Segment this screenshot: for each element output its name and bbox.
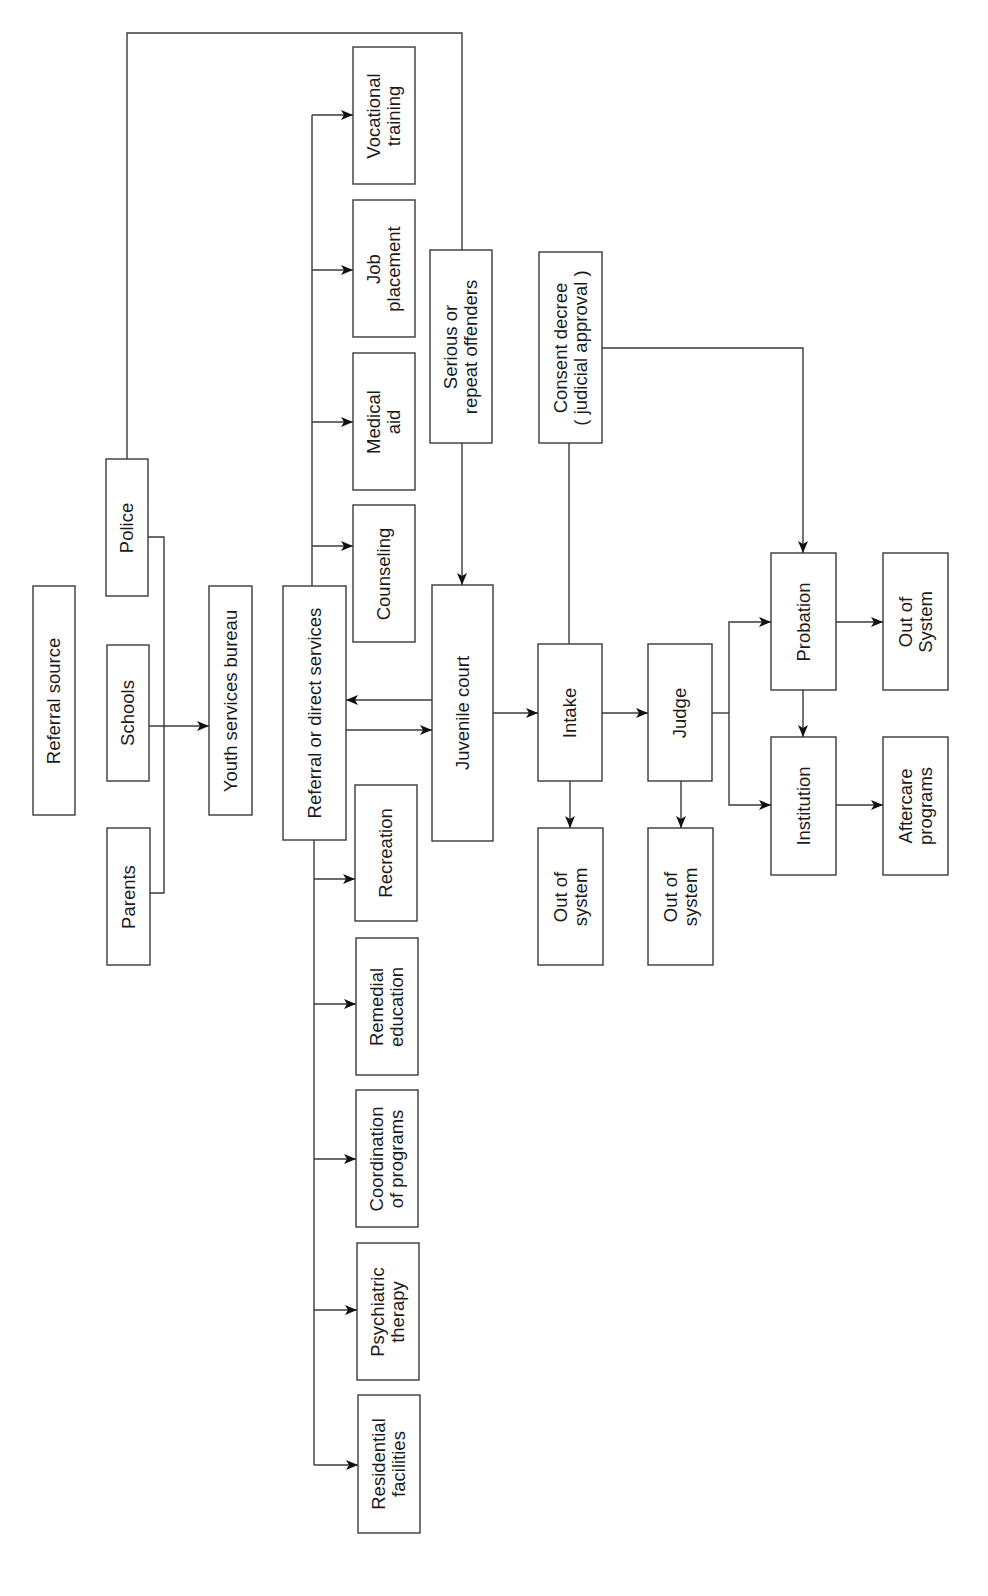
node-police: Police: [106, 459, 148, 596]
node-recreation: Recreation: [355, 785, 417, 921]
label-job-line1: Job: [364, 226, 384, 311]
node-intake: Intake: [538, 644, 602, 781]
node-referral-source: Referral source: [33, 586, 75, 815]
label-aftercare-line2: programs: [916, 767, 936, 845]
node-remedial-education: Remedial education: [356, 938, 418, 1075]
node-serious-offenders: Serious or repeat offenders: [430, 250, 492, 443]
edge-consent-probation: [602, 348, 803, 553]
label-institution: Institution: [793, 766, 814, 845]
label-out-judge-line1: Out of: [661, 867, 681, 926]
label-out-probation-line2: System: [916, 591, 936, 653]
label-psychiatric-line1: Psychiatric: [368, 1267, 388, 1356]
node-youth-services-bureau: Youth services bureau: [209, 586, 252, 815]
node-juvenile-court: Juvenile court: [432, 585, 493, 841]
label-serious-line1: Serious or: [441, 279, 461, 413]
label-schools: Schools: [117, 680, 138, 746]
node-out-of-system-probation: Out of System: [883, 553, 948, 690]
node-parents: Parents: [107, 828, 150, 965]
label-recreation: Recreation: [375, 808, 396, 897]
label-medical-line2: aid: [384, 390, 404, 454]
node-medical-aid: Medical aid: [353, 353, 415, 490]
node-residential-facilities: Residential facilities: [358, 1395, 420, 1533]
label-probation: Probation: [793, 582, 814, 661]
label-out-judge-line2: system: [681, 867, 701, 926]
label-juvenile-court: Juvenile court: [452, 656, 473, 770]
label-residential-line2: facilities: [389, 1418, 409, 1510]
label-judge: Judge: [669, 687, 690, 737]
label-coordination-line2: of programs: [387, 1106, 407, 1211]
edge-judge-institution: [729, 713, 771, 805]
label-counseling: Counseling: [373, 527, 394, 620]
node-probation: Probation: [771, 553, 836, 690]
label-coordination-line1: Coordination: [367, 1106, 387, 1211]
label-consent-line1: Consent decree: [551, 270, 571, 425]
label-aftercare-line1: Aftercare: [896, 767, 916, 845]
node-job-placement: Job placement: [353, 200, 415, 337]
node-coordination-programs: Coordination of programs: [356, 1090, 418, 1227]
node-consent-decree: Consent decree ( judicial approval ): [539, 252, 602, 443]
label-vocational-line2: training: [384, 73, 404, 158]
node-counseling: Counseling: [353, 505, 415, 642]
flowchart-canvas: [0, 0, 988, 1596]
node-institution: Institution: [771, 737, 836, 875]
node-out-of-system-intake: Out of system: [538, 828, 603, 965]
label-out-probation-line1: Out of: [896, 591, 916, 653]
label-out-intake-line1: Out of: [551, 867, 571, 926]
label-residential-line1: Residential: [369, 1418, 389, 1510]
label-remedial-line1: Remedial: [367, 966, 387, 1046]
label-serious-line2: repeat offenders: [461, 279, 481, 413]
label-job-line2: placement: [384, 226, 404, 311]
node-vocational-training: Vocational training: [353, 47, 415, 184]
label-out-intake-line2: system: [571, 867, 591, 926]
node-out-of-system-judge: Out of system: [648, 828, 713, 965]
node-aftercare-programs: Aftercare programs: [883, 737, 948, 875]
label-intake: Intake: [559, 687, 580, 737]
node-referral-direct-services: Referral or direct services: [283, 586, 346, 840]
label-vocational-line1: Vocational: [364, 73, 384, 158]
node-psychiatric-therapy: Psychiatric therapy: [357, 1243, 419, 1380]
label-youth-services-bureau: Youth services bureau: [220, 609, 241, 791]
label-medical-line1: Medical: [364, 390, 384, 454]
edge-judge-probation: [729, 622, 771, 713]
node-schools: Schools: [107, 645, 149, 781]
label-remedial-line2: education: [387, 966, 407, 1046]
label-psychiatric-line2: therapy: [388, 1267, 408, 1356]
node-judge: Judge: [648, 644, 712, 781]
label-referral-direct-services: Referral or direct services: [304, 608, 325, 819]
label-referral-source: Referral source: [43, 637, 64, 763]
label-parents: Parents: [118, 865, 139, 929]
label-police: Police: [116, 502, 137, 552]
label-consent-line2: ( judicial approval ): [571, 270, 591, 425]
